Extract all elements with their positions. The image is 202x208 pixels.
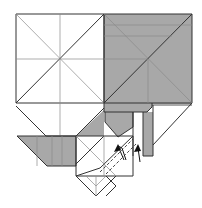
origami-diagram	[0, 0, 202, 208]
center-top-gray-band	[104, 103, 152, 112]
origami-diagram-svg	[0, 0, 202, 208]
right-vertical-strip-gray	[143, 112, 153, 156]
